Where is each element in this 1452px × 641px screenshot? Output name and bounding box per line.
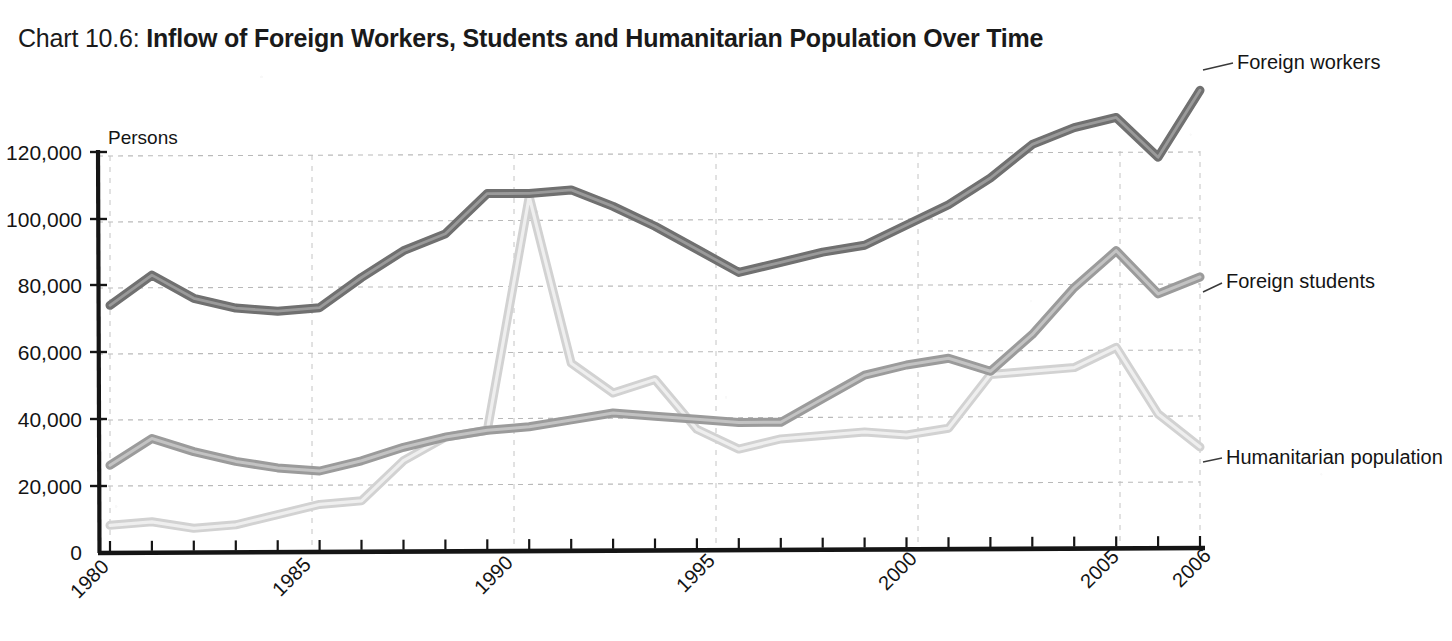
y-tick-label-80000: 80,000: [18, 274, 82, 297]
y-tick-label-40000: 40,000: [18, 408, 82, 431]
y-tick-label-20000: 20,000: [18, 475, 82, 498]
gridline-60000: [98, 350, 1200, 354]
axes-group: [90, 150, 1205, 553]
leader-line-foreign-workers: [1203, 63, 1233, 70]
y-tick-label-0: 0: [70, 541, 82, 564]
gridline-120000: [98, 152, 1200, 156]
chart-canvas: 120,000 100,000 80,000 60,000 40,000 20,…: [0, 0, 1452, 641]
y-axis-unit-label: Persons: [108, 127, 178, 148]
x-tick-label-2000: 2000: [874, 547, 921, 594]
gridline-80000: [98, 284, 1200, 288]
y-tick-label-100000: 100,000: [6, 208, 82, 231]
series-label-foreign-workers: Foreign workers: [1237, 51, 1380, 73]
series-line-foreign-workers-highlight: [110, 90, 1200, 311]
y-axis-tick-labels: 120,000 100,000 80,000 60,000 40,000 20,…: [6, 141, 82, 564]
x-axis-line: [98, 548, 1205, 553]
leader-line-humanitarian-population: [1203, 458, 1222, 462]
series-line-foreign-workers: [110, 90, 1200, 311]
series-line-humanitarian-population: [110, 197, 1200, 529]
y-tick-label-60000: 60,000: [18, 341, 82, 364]
series-line-foreign-students-highlight: [110, 251, 1200, 471]
gridlines-group: [98, 151, 1200, 552]
series-label-humanitarian-population: Humanitarian population: [1226, 446, 1443, 468]
leader-line-foreign-students: [1203, 283, 1222, 292]
x-tick-label-1985: 1985: [268, 553, 315, 600]
y-tick-label-120000: 120,000: [6, 141, 82, 164]
x-tick-label-2006: 2006: [1168, 544, 1215, 591]
series-callouts-group: Foreign workers Foreign students Humanit…: [1203, 51, 1443, 468]
x-tick-label-2005: 2005: [1076, 545, 1123, 592]
line-chart-svg: 120,000 100,000 80,000 60,000 40,000 20,…: [0, 0, 1452, 641]
series-label-foreign-students: Foreign students: [1226, 270, 1375, 292]
series-line-humanitarian-population-highlight: [110, 197, 1200, 529]
x-tick-label-1990: 1990: [470, 551, 517, 598]
data-series-group: [110, 90, 1200, 528]
series-line-foreign-students: [110, 251, 1200, 471]
gridline-20000: [98, 482, 1200, 486]
x-tick-label-1995: 1995: [672, 549, 719, 596]
